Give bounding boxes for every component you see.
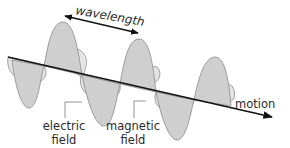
electric-field-label-line2: field	[52, 133, 77, 147]
electric-crest-3	[194, 57, 231, 106]
electric-trough-1	[12, 60, 44, 108]
electric-field-label-line1: electric	[43, 119, 85, 133]
wavelength-label: wavelength	[74, 3, 145, 29]
magnetic-field-label-line2: field	[121, 133, 146, 147]
electric-trough-3	[156, 92, 194, 140]
em-wave-diagram: wavelength electric field magnetic field…	[0, 0, 290, 148]
magnetic-field-leader	[134, 101, 146, 118]
magnetic-field-label-line1: magnetic	[106, 119, 160, 133]
electric-field-leader	[65, 102, 82, 118]
motion-label: motion	[235, 97, 275, 111]
